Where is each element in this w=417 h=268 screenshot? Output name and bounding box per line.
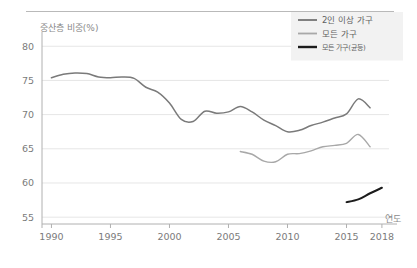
y-tick-label: 80 (22, 41, 34, 52)
x-axis-title: 연도 (385, 214, 401, 224)
x-axis-tick-labels: 1990199520002005201020152018 (39, 231, 394, 242)
legend-label-1: 모든 가구 (322, 29, 357, 39)
axis-lines (42, 32, 397, 228)
y-tick-label: 65 (22, 143, 34, 154)
y-tick-label: 75 (22, 75, 34, 86)
series-line-2 (347, 188, 382, 202)
x-tick-label: 2018 (370, 231, 394, 242)
x-tick-label: 2005 (216, 231, 240, 242)
y-axis-title: 중산층 비중(%) (40, 23, 98, 33)
x-tick-label: 2000 (157, 231, 181, 242)
x-axis-tick-marks (51, 224, 381, 228)
x-tick-label: 1990 (39, 231, 63, 242)
y-tick-label: 55 (22, 212, 34, 223)
legend-label-2: 모든 가구(균등) (322, 43, 366, 52)
y-tick-label: 70 (22, 109, 34, 120)
chart-legend: 2인 이상 가구모든 가구모든 가구(균등) (291, 12, 403, 61)
legend-label-0: 2인 이상 가구 (322, 15, 373, 25)
x-tick-label: 2010 (275, 231, 299, 242)
gridlines (42, 46, 389, 217)
y-axis-tick-labels: 556065707580 (22, 41, 34, 223)
line-chart: 556065707580 199019952000200520102015201… (0, 0, 417, 268)
x-tick-label: 1995 (98, 231, 122, 242)
series-line-0 (51, 73, 370, 132)
chart-figure: 556065707580 199019952000200520102015201… (0, 0, 417, 268)
x-tick-label: 2015 (334, 231, 358, 242)
y-tick-label: 60 (22, 177, 34, 188)
